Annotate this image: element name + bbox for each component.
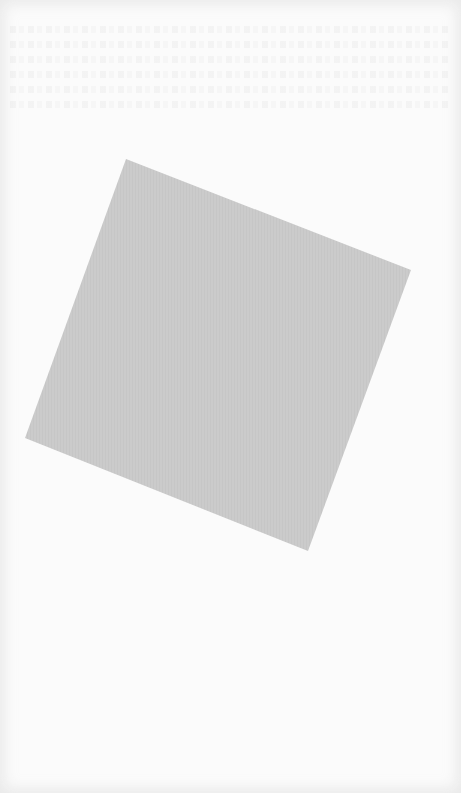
scanned-page (0, 0, 461, 793)
rotated-gray-square (25, 159, 411, 551)
shape-canvas (0, 0, 461, 793)
